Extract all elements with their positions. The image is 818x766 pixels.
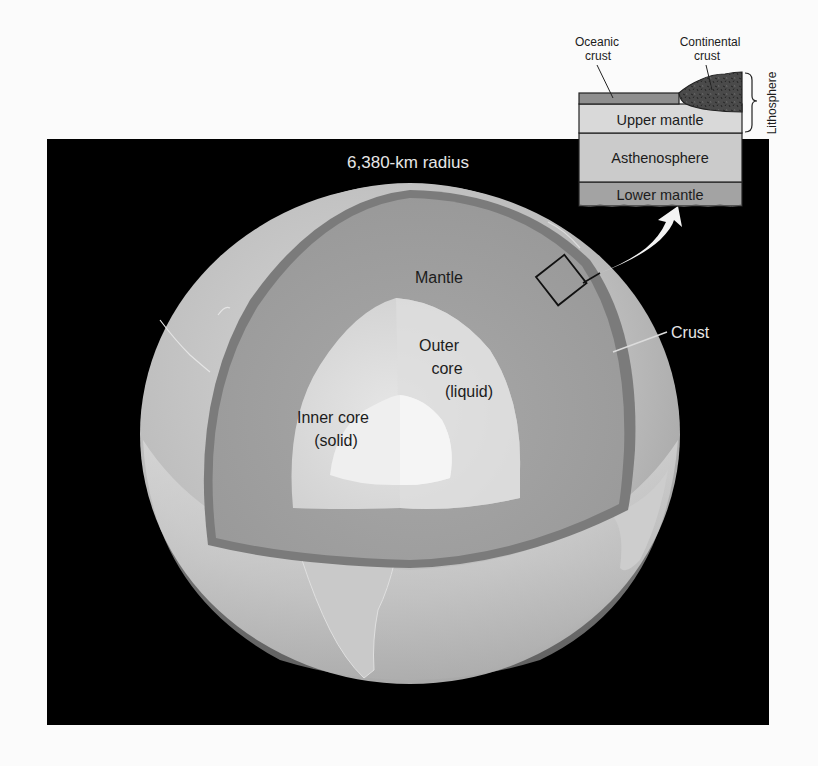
continental-crust-label-1: Continental xyxy=(680,35,741,49)
earth-structure-diagram: 6,380-km radius Mantle Outer core (liqui… xyxy=(0,0,818,766)
oceanic-crust-label-1: Oceanic xyxy=(575,35,619,49)
mantle-label: Mantle xyxy=(415,269,463,286)
radius-label: 6,380-km radius xyxy=(347,153,469,172)
lithosphere-brace xyxy=(745,73,757,132)
outer-core-label-1: Outer xyxy=(419,337,460,354)
crust-label: Crust xyxy=(671,324,710,341)
upper-mantle-label: Upper mantle xyxy=(616,112,703,128)
asthenosphere-label: Asthenosphere xyxy=(611,150,709,166)
oceanic-crust-label-2: crust xyxy=(585,49,612,63)
lower-mantle-label: Lower mantle xyxy=(616,187,703,203)
continental-crust-label-2: crust xyxy=(694,49,721,63)
inner-core-label-2: (solid) xyxy=(314,432,358,449)
inset-oceanic-crust xyxy=(579,93,679,104)
inner-core-label-1: Inner core xyxy=(297,409,369,426)
outer-core-label-2: core xyxy=(431,360,462,377)
outer-core-label-3: (liquid) xyxy=(445,383,493,400)
lithosphere-label: Lithosphere xyxy=(765,71,779,134)
